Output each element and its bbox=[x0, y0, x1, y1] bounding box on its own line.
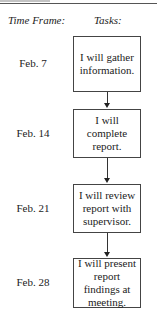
task-box: I will review report with supervisor. bbox=[73, 184, 141, 233]
task-text: I will review report with supervisor. bbox=[76, 189, 138, 228]
date-label: Feb. 14 bbox=[0, 127, 66, 139]
connector-line bbox=[107, 158, 108, 178]
tasks-header: Tasks: bbox=[94, 14, 122, 26]
date-label: Feb. 21 bbox=[0, 202, 66, 214]
top-rule bbox=[0, 3, 157, 4]
task-text: I will gather information. bbox=[76, 51, 138, 77]
task-text: I will complete report. bbox=[76, 114, 138, 153]
task-box: I will complete report. bbox=[73, 109, 141, 158]
date-label: Feb. 28 bbox=[0, 276, 66, 288]
arrow-down-icon bbox=[104, 178, 110, 183]
header-fragment bbox=[0, 0, 50, 2]
task-box: I will gather information. bbox=[73, 36, 141, 92]
connector-line bbox=[107, 233, 108, 253]
arrow-down-icon bbox=[104, 103, 110, 108]
task-text: I will present report findings at meetin… bbox=[76, 257, 138, 309]
date-label: Feb. 7 bbox=[0, 57, 66, 69]
time-frame-header: Time Frame: bbox=[8, 14, 65, 26]
task-box: I will present report findings at meetin… bbox=[73, 258, 141, 308]
